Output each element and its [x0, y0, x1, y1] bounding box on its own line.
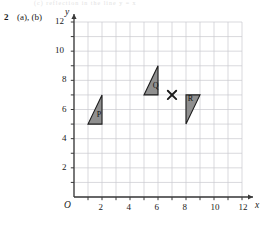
x-axis-title: x — [255, 200, 259, 210]
y-tick-label-2: 2 — [62, 162, 67, 172]
y-axis-arrowhead — [71, 14, 76, 19]
y-tick-label-6: 6 — [62, 104, 67, 114]
x-tick-label-2: 2 — [99, 202, 104, 212]
y-tick-label-4: 4 — [62, 133, 67, 143]
x-tick-label-4: 4 — [127, 202, 132, 212]
y-axis-title: y — [65, 7, 69, 17]
y-tick-label-10: 10 — [55, 45, 64, 55]
shape-label-p: P — [97, 110, 101, 119]
y-tick-label-12: 12 — [55, 16, 64, 26]
worksheet-page: (c) reflection in the line y = x 2 (a), … — [0, 0, 264, 229]
x-tick-label-6: 6 — [155, 202, 160, 212]
x-tick-label-10: 10 — [211, 202, 220, 212]
axis-origin-label: O — [64, 200, 71, 210]
x-tick-label-12: 12 — [239, 202, 248, 212]
shape-label-r: R — [188, 94, 193, 103]
y-tick-label-8: 8 — [62, 74, 67, 84]
x-axis-arrowhead — [248, 194, 253, 199]
x-tick-label-8: 8 — [183, 202, 188, 212]
shape-label-q: Q — [153, 81, 159, 90]
coordinate-grid-figure — [0, 0, 264, 229]
